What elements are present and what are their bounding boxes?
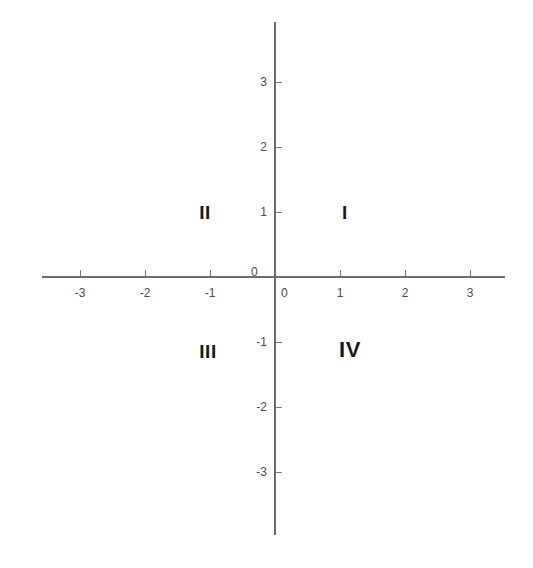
quadrant-label-three: III — [199, 342, 216, 361]
coordinate-plane-figure: -3-2-1123321-1-2-3 0 0 I II III IV — [0, 0, 533, 568]
y-axis-tick — [275, 407, 282, 408]
x-axis-tick — [470, 270, 471, 277]
y-axis-tick — [275, 472, 282, 473]
y-axis-tick — [275, 147, 282, 148]
x-axis-tick-label: 2 — [402, 287, 409, 299]
y-axis-tick-label: 2 — [247, 141, 267, 153]
x-axis-tick — [210, 270, 211, 277]
y-axis-tick-label: -2 — [247, 401, 267, 413]
x-axis-tick-label: -2 — [140, 287, 151, 299]
x-axis-tick — [340, 270, 341, 277]
x-axis-tick — [405, 270, 406, 277]
y-axis-line — [274, 22, 276, 535]
y-axis-tick — [275, 212, 282, 213]
x-axis-tick-label: 3 — [467, 287, 474, 299]
x-axis-tick-label: -1 — [205, 287, 216, 299]
x-axis-tick-label: 1 — [337, 287, 344, 299]
x-axis-zero-label: 0 — [281, 287, 288, 299]
y-axis-tick — [275, 342, 282, 343]
quadrant-label-four: IV — [339, 339, 361, 361]
y-axis-tick — [275, 82, 282, 83]
y-axis-tick-label: 3 — [247, 76, 267, 88]
x-axis-tick — [80, 270, 81, 277]
x-axis-tick — [145, 270, 146, 277]
x-axis-tick-label: -3 — [75, 287, 86, 299]
y-axis-zero-label: 0 — [251, 266, 258, 278]
quadrant-label-two: II — [199, 203, 211, 222]
y-axis-tick-label: 1 — [247, 206, 267, 218]
y-axis-tick-label: -1 — [247, 336, 267, 348]
quadrant-label-one: I — [342, 203, 348, 222]
y-axis-tick-label: -3 — [247, 466, 267, 478]
